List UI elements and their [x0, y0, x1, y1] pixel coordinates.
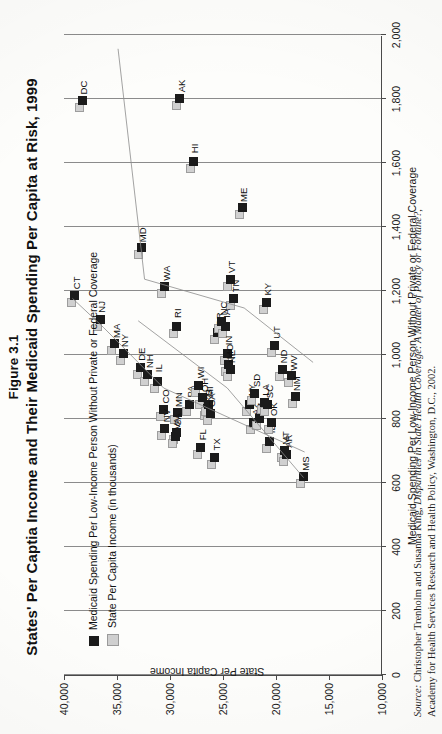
source-label: Source: [412, 685, 423, 717]
data-point-spending [282, 450, 291, 459]
data-point-spending [160, 282, 169, 291]
x-axis-tick-label: 600 [390, 474, 402, 492]
x-axis-tick [381, 354, 386, 355]
data-point-label: NM [291, 376, 302, 391]
x-axis-tick-label: 1,200 [390, 278, 402, 304]
figure: Figure 3.1 States' Per Captia Income and… [6, 4, 436, 730]
data-point-label: AK [175, 80, 186, 93]
x-axis-tick [381, 418, 386, 419]
data-point-spending [265, 437, 274, 446]
y-axis-tick [382, 675, 383, 680]
light-square-icon [107, 634, 119, 646]
data-point-label: HI [189, 144, 200, 154]
y-axis-tick-label: 30,000 [164, 683, 176, 729]
data-point-label: VA [171, 418, 182, 430]
data-point-label: TX [210, 438, 221, 450]
legend-item-spending: Medicaid Spending Per Low-Income Person … [86, 252, 101, 646]
data-point-label: GA [206, 393, 217, 407]
data-point-label: OK [267, 402, 278, 416]
y-axis-tick-label: 20,000 [270, 683, 282, 729]
data-point-spending [278, 365, 287, 374]
data-point-label: MD [137, 227, 148, 242]
data-point-spending [153, 377, 162, 386]
data-point-spending [221, 322, 230, 331]
data-point-label: MN [173, 392, 184, 407]
data-point-spending [137, 243, 146, 252]
data-point-spending [262, 298, 271, 307]
dark-square-icon [89, 636, 99, 646]
data-point-spending [78, 96, 87, 105]
x-axis-tick [381, 162, 386, 163]
y-axis-tick-label: 15,000 [323, 683, 335, 729]
data-point-spending [206, 409, 215, 418]
y-axis-title: State Per Capita Income [57, 666, 357, 678]
data-point-spending [185, 400, 194, 409]
legend: Medicaid Spending Per Low-Income Person … [86, 252, 124, 646]
data-point-spending [189, 157, 198, 166]
x-axis-tick [381, 546, 386, 547]
legend-label-income: State Per Capita Income (in thousands) [105, 444, 120, 628]
data-point-spending [70, 291, 79, 300]
data-point-label: UT [270, 326, 281, 339]
data-point-label: WV [287, 355, 298, 370]
gridline-vertical [64, 162, 381, 163]
data-point-label: MS [299, 456, 310, 470]
data-point-spending [160, 424, 169, 433]
data-point-label: WA [160, 266, 171, 281]
data-point-spending [196, 443, 205, 452]
data-point-spending [172, 322, 181, 331]
data-point-label: ME [238, 188, 249, 202]
x-axis-tick-label: 200 [390, 602, 402, 620]
data-point-spending [226, 365, 235, 374]
source-title: Disparities in State Health Coverage: A … [412, 212, 423, 505]
x-axis-tick [381, 34, 386, 35]
data-point-label: KY [262, 283, 273, 296]
x-axis-tick-label: 400 [390, 538, 402, 556]
data-point-label: CO [159, 389, 170, 403]
data-point-label: TN [229, 280, 240, 293]
y-axis-tick-label: 40,000 [58, 683, 70, 729]
data-point-label: RI [172, 308, 183, 318]
data-point-spending [210, 453, 219, 462]
y-axis-tick-label: 10,000 [376, 683, 388, 729]
figure-rotated-canvas: Figure 3.1 States' Per Captia Income and… [6, 4, 436, 730]
data-point-label: IL [153, 364, 164, 372]
legend-label-spending: Medicaid Spending Per Low-Income Person … [86, 252, 101, 630]
gridline-vertical [64, 98, 381, 99]
data-point-label: NE [226, 350, 237, 363]
gridline-vertical [64, 34, 381, 35]
x-axis-tick-label: 1,800 [390, 86, 402, 112]
scanned-page: Figure 3.1 States' Per Captia Income and… [0, 0, 442, 734]
x-axis-tick-label: 0 [390, 672, 402, 678]
y-axis-tick-label: 25,000 [217, 683, 229, 729]
x-axis-tick-label: 800 [390, 410, 402, 428]
x-axis-tick [381, 482, 386, 483]
data-point-label: IA [221, 309, 232, 318]
data-point-spending [267, 418, 276, 427]
x-axis-tick-label: 1,400 [390, 214, 402, 240]
x-axis-tick [381, 290, 386, 291]
data-point-spending [171, 432, 180, 441]
x-axis-tick-label: 1,000 [390, 342, 402, 368]
source-text: Christopher Trenholm and Susanna King, D… [412, 209, 423, 682]
figure-number: Figure 3.1 [6, 4, 21, 730]
data-point-spending [238, 203, 247, 212]
x-axis-tick [381, 610, 386, 611]
x-axis-tick [381, 226, 386, 227]
data-point-label: DC [78, 81, 89, 95]
figure-title: States' Per Captia Income and Their Medi… [23, 4, 40, 730]
data-point-spending [175, 95, 184, 104]
x-axis-tick [381, 98, 386, 99]
x-axis-tick-label: 2,000 [390, 22, 402, 48]
x-axis-tick-label: 1,600 [390, 150, 402, 176]
data-point-spending [229, 295, 238, 304]
data-point-label: VT [226, 261, 237, 273]
legend-item-income: State Per Capita Income (in thousands) [105, 252, 120, 646]
data-point-label: CT [70, 276, 81, 289]
data-point-label: WI [194, 367, 205, 379]
data-point-spending [250, 389, 259, 398]
data-point-label: NV [160, 409, 171, 422]
data-point-label: FL [196, 429, 207, 440]
y-axis-tick-label: 35,000 [111, 683, 123, 729]
data-point-label: AR [282, 435, 293, 448]
